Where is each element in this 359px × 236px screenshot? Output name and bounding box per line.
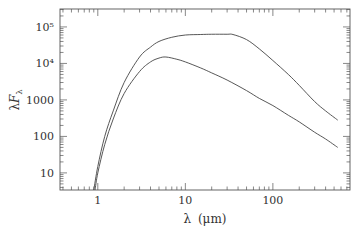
x-tick-label: 10 bbox=[178, 194, 192, 207]
y-tick-label: 10⁴ bbox=[36, 57, 55, 70]
curve-upper bbox=[94, 34, 338, 190]
y-tick-label: 10⁵ bbox=[36, 21, 54, 34]
x-tick-label: 1 bbox=[94, 194, 101, 207]
x-tick-label: 100 bbox=[262, 194, 283, 207]
axis-ticks bbox=[60, 9, 350, 190]
x-axis-label: λ (μm) bbox=[184, 212, 227, 226]
y-tick-label: 10 bbox=[40, 167, 54, 180]
y-axis-label: λFλ bbox=[8, 89, 24, 110]
sed-chart: 11010010100100010⁴10⁵ λ (μm) λFλ bbox=[0, 0, 359, 236]
plot-frame bbox=[60, 9, 350, 190]
curves bbox=[94, 34, 338, 190]
curve-lower bbox=[95, 57, 338, 190]
y-tick-label: 100 bbox=[33, 130, 54, 143]
svg-text:λFλ: λFλ bbox=[8, 89, 24, 110]
y-tick-label: 1000 bbox=[26, 94, 54, 107]
tick-labels: 11010010100100010⁴10⁵ bbox=[26, 21, 283, 207]
